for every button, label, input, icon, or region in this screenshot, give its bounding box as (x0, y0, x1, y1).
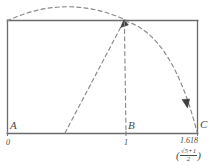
tick-label-phi: 1.618 (180, 137, 198, 145)
upper-dashed-arc (7, 7, 126, 21)
vertex-label-c: C (200, 119, 207, 130)
diagonal-dashed-line (65, 22, 124, 133)
arc-arrowhead-icon (182, 99, 190, 108)
vertical-dashed-line (124, 22, 126, 133)
right-dashed-arc (125, 21, 197, 132)
formula-denominator: 2 (186, 156, 192, 163)
tick-label-1: 1 (124, 139, 128, 147)
tick-label-0: 0 (6, 139, 10, 147)
rectangle-outline (7, 20, 198, 134)
vertex-label-a: A (10, 120, 17, 131)
vertex-label-b: B (128, 120, 135, 131)
formula-fraction: √5+12 (180, 148, 198, 163)
formula-close-paren: ) (197, 149, 201, 161)
golden-ratio-formula: (√5+12) (176, 148, 201, 163)
